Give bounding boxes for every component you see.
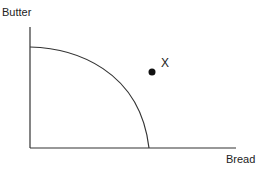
point-x-label: X [161, 56, 169, 70]
ppf-diagram [0, 0, 271, 176]
point-x-marker [149, 69, 156, 76]
ppf-curve [30, 47, 149, 148]
y-axis-label: Butter [2, 6, 31, 18]
x-axis-label: Bread [226, 153, 255, 165]
